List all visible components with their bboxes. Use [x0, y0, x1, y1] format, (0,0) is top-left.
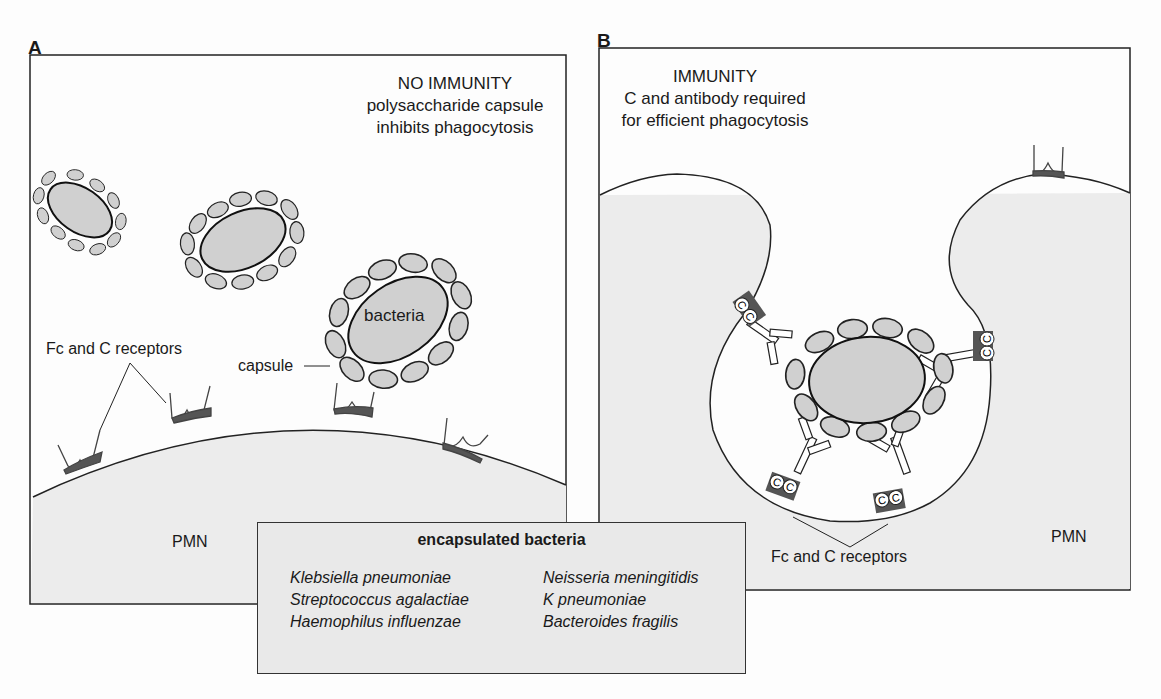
panel-b-title-line2: C and antibody required [600, 88, 830, 110]
svg-text:C: C [981, 349, 993, 357]
panel-b-title-line1: IMMUNITY [600, 66, 830, 88]
panel-a-title-line2: polysaccharide capsule [340, 95, 570, 117]
legend-item: Bacteroides fragilis [543, 611, 699, 633]
legend-item: Neisseria meningitidis [543, 567, 699, 589]
legend-item: Klebsiella pneumoniae [290, 567, 469, 589]
legend-item: Streptococcus agalactiae [290, 589, 469, 611]
panel-letter-b: B [597, 30, 611, 52]
legend-column-2: Neisseria meningitidis K pneumoniae Bact… [543, 567, 699, 633]
receptors-label-b: Fc and C receptors [771, 548, 907, 566]
capsule-label: capsule [238, 357, 293, 375]
legend-box: encapsulated bacteria Klebsiella pneumon… [257, 522, 746, 674]
panel-b-title: IMMUNITY C and antibody required for eff… [600, 66, 830, 132]
pmn-label-a: PMN [172, 533, 208, 551]
panel-a-title-line1: NO IMMUNITY [340, 73, 570, 95]
pmn-label-b: PMN [1051, 528, 1087, 546]
bacteria-label: bacteria [364, 306, 424, 326]
complement-receptor: C C [973, 331, 994, 361]
receptors-label-a: Fc and C receptors [46, 340, 182, 358]
panel-letter-a: A [28, 37, 42, 59]
legend-column-1: Klebsiella pneumoniae Streptococcus agal… [290, 567, 469, 633]
legend-item: Haemophilus influenzae [290, 611, 469, 633]
legend-title: encapsulated bacteria [258, 531, 745, 549]
panel-b-title-line3: for efficient phagocytosis [600, 110, 830, 132]
panel-a-title: NO IMMUNITY polysaccharide capsule inhib… [340, 73, 570, 139]
svg-text:C: C [981, 335, 993, 343]
legend-item: K pneumoniae [543, 589, 699, 611]
panel-a-title-line3: inhibits phagocytosis [340, 117, 570, 139]
